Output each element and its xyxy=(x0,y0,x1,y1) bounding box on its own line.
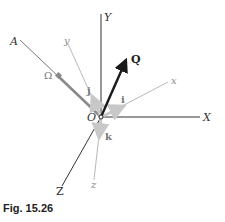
Y-axis-label: Y xyxy=(104,12,111,23)
unit-vector-i-label: i xyxy=(121,95,125,105)
x-axis-rotating-label: x xyxy=(171,76,177,86)
figure-caption: Fig. 15.26 xyxy=(3,202,53,214)
A-axis-label: A xyxy=(10,36,18,47)
y-axis-rotating-label: y xyxy=(64,36,70,46)
kinematics-diagram xyxy=(0,0,225,222)
origin-label: O xyxy=(87,112,96,123)
unit-vector-k xyxy=(99,117,101,138)
unit-vector-k-label: k xyxy=(105,132,112,142)
z-axis-rotating-label: z xyxy=(91,180,96,190)
origin-point xyxy=(99,115,103,119)
Z-axis-label: Z xyxy=(56,186,64,197)
Z-axis xyxy=(62,117,101,186)
X-axis-label: X xyxy=(203,112,211,123)
omega-label: Ω xyxy=(44,71,52,81)
unit-vector-j-label: j xyxy=(87,86,91,96)
Q-label: Q xyxy=(131,54,141,65)
